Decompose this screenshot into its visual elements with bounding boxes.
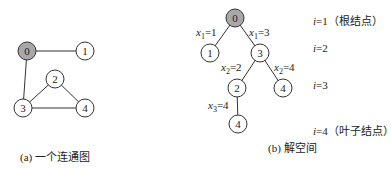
svg-text:0: 0 [24,45,30,57]
caption-tree-b: (b) 解空间 [268,139,317,155]
level-label: i=2 [313,42,328,54]
svg-text:1: 1 [207,47,213,59]
svg-text:2: 2 [52,73,58,85]
tree-node-2: 2 [228,79,246,97]
caption-graph-a: (a) 一个连通图 [20,148,90,164]
svg-text:0: 0 [232,12,238,24]
graph-node-4: 4 [76,99,94,117]
tree-node-3: 3 [251,44,269,62]
svg-text:2: 2 [234,82,240,94]
level-label: i=1（根结点） [313,12,383,28]
svg-text:3: 3 [20,102,26,114]
level-label: i=3 [313,79,328,91]
edge-label: x1=3 [249,26,270,41]
svg-text:3: 3 [257,47,263,59]
svg-text:4: 4 [235,118,241,130]
svg-text:4: 4 [82,102,88,114]
edge-label: x2=2 [221,61,242,76]
graph-node-1: 1 [76,42,94,60]
tree-node-0: 0 [226,9,244,27]
tree-node-4: 4 [229,115,247,133]
level-label: i=4（叶子结点） [313,122,391,138]
graph-node-3: 3 [14,99,32,117]
graph-node-0: 0 [18,42,36,60]
svg-text:1: 1 [82,45,88,57]
tree-node-1: 1 [201,44,219,62]
svg-text:4: 4 [280,82,286,94]
edge-label: x2=4 [274,61,295,76]
tree-node-4: 4 [274,79,292,97]
edge-label: x1=1 [196,26,217,41]
edge-label: x3=4 [208,99,229,114]
graph-node-2: 2 [46,70,64,88]
